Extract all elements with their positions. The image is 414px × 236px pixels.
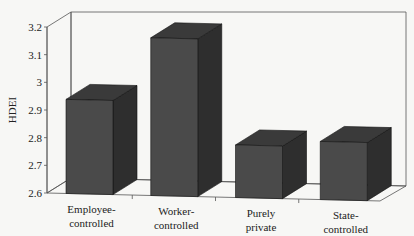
y-tick-label: 2.9 (28, 104, 42, 116)
x-category-label: Purely (247, 207, 276, 219)
bar (151, 23, 222, 197)
x-category-label: State- (333, 209, 359, 221)
y-tick-label: 3 (37, 76, 43, 88)
y-tick-label: 2.7 (28, 159, 42, 171)
hdei-3d-bar-chart: 2.62.72.82.933.13.2 Employee-controlledW… (0, 0, 414, 236)
y-tick-label: 2.8 (28, 132, 42, 144)
x-category-label: controlled (323, 223, 368, 235)
y-axis-title: HDEI (6, 97, 18, 124)
y-tick-label: 2.6 (28, 187, 42, 199)
y-tick-label: 3.1 (28, 49, 42, 61)
bar (236, 130, 307, 199)
bar (320, 126, 391, 200)
y-tick-label: 3.2 (28, 21, 42, 33)
x-category-label: private (246, 221, 277, 233)
x-axis-labels: Employee-controlledWorker-controlledPure… (67, 195, 368, 235)
bar (66, 84, 137, 194)
y-axis: 2.62.72.82.933.13.2 (28, 21, 47, 199)
x-category-label: Employee- (67, 203, 116, 215)
x-category-label: controlled (154, 219, 199, 231)
x-category-label: Worker- (158, 205, 194, 217)
x-category-label: controlled (69, 217, 114, 229)
bars (66, 23, 391, 201)
